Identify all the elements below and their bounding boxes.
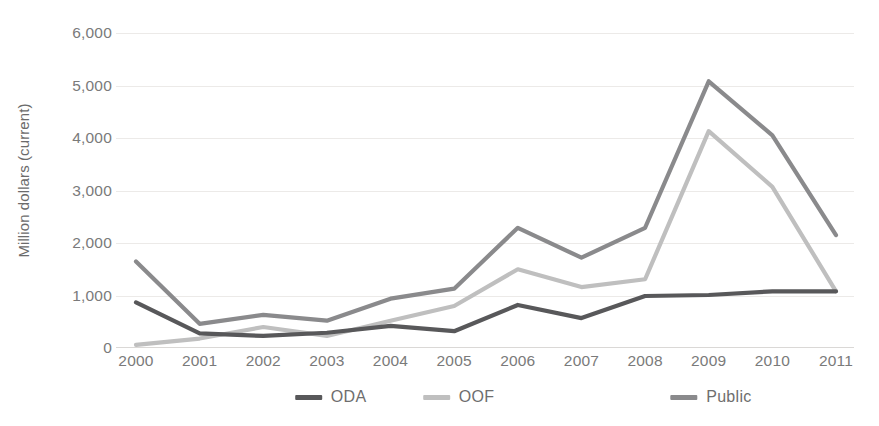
x-axis-tick-label: 2009 [691, 352, 726, 370]
legend-label: Public [706, 388, 751, 406]
x-axis-tick-label: 2007 [564, 352, 599, 370]
y-axis-tick-label: 3,000 [44, 182, 112, 200]
y-axis-tick-label: 2,000 [44, 234, 112, 252]
line-chart: Million dollars (current) 01,0002,0003,0… [0, 0, 879, 426]
x-axis-tick-label: 2006 [500, 352, 535, 370]
legend-item-public[interactable]: Public [670, 388, 751, 406]
plot-area [116, 33, 854, 348]
x-axis-tick-label: 2002 [246, 352, 281, 370]
legend-item-oof[interactable]: OOF [423, 388, 495, 406]
series-lines [116, 33, 854, 348]
x-axis-tick-label: 2003 [309, 352, 344, 370]
legend-swatch-oof [423, 395, 450, 400]
legend-swatch-oda [295, 395, 322, 400]
legend-label: ODA [331, 388, 367, 406]
y-axis-tick-label: 4,000 [44, 129, 112, 147]
x-axis-tick-label: 2004 [373, 352, 408, 370]
x-axis-tick-label: 2011 [819, 352, 853, 370]
y-axis-tick-label: 1,000 [44, 287, 112, 305]
x-axis-tick-label: 2010 [755, 352, 790, 370]
y-axis-title: Million dollars (current) [6, 0, 40, 360]
legend-item-oda[interactable]: ODA [295, 388, 367, 406]
legend-swatch-public [670, 395, 697, 400]
x-axis-tick-labels: 2000200120022003200420052006200720082009… [116, 352, 854, 378]
chart-legend: ODAOOFPublic [116, 388, 869, 414]
y-axis-tick-label: 0 [44, 339, 112, 357]
x-axis-line [116, 347, 854, 348]
x-axis-tick-label: 2008 [627, 352, 662, 370]
y-axis-tick-label: 5,000 [44, 77, 112, 95]
y-axis-tick-label: 6,000 [44, 24, 112, 42]
series-line-oof [136, 131, 836, 345]
x-axis-tick-label: 2000 [118, 352, 153, 370]
x-axis-tick-label: 2001 [182, 352, 217, 370]
x-axis-tick-label: 2005 [437, 352, 472, 370]
y-axis-title-text: Million dollars (current) [15, 103, 32, 257]
y-axis-tick-labels: 01,0002,0003,0004,0005,0006,000 [42, 0, 112, 360]
legend-label: OOF [459, 388, 495, 406]
